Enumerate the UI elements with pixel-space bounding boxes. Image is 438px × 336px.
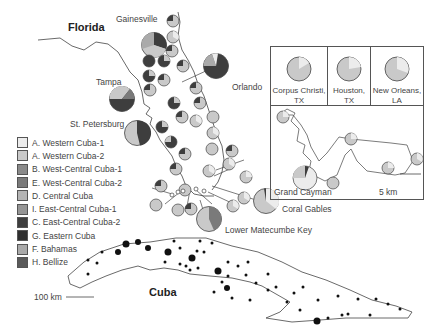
legend-item: A. Western Cuba-1 [17, 136, 122, 149]
legend-item: E. West-Central Cuba-2 [17, 176, 122, 189]
pie-tampa[interactable] [109, 86, 134, 111]
pie-gainesville[interactable] [141, 32, 166, 57]
pie-houston[interactable] [328, 47, 371, 87]
pie-orlando[interactable] [203, 53, 228, 78]
region-label-cuba: Cuba [149, 287, 177, 298]
legend-item: A. Western Cuba-2 [17, 149, 122, 162]
pie-new-orleans[interactable] [371, 47, 423, 87]
inset-corpus-christi: Corpus Christi, TX [271, 47, 328, 105]
city-label-gainesville: Gainesville [116, 15, 158, 24]
inset-label-grand-cayman: Grand Cayman [274, 188, 332, 197]
legend-item: D. Central Cuba [17, 189, 122, 202]
city-label-st-petersburg: St. Petersburg [70, 120, 124, 129]
legend: A. Western Cuba-1 A. Western Cuba-2 B. W… [17, 136, 122, 269]
scale-label-main: 100 km [34, 293, 62, 302]
legend-item: I. East-Central Cuba-1 [17, 202, 122, 215]
city-label-coral-gables: Coral Gables [282, 205, 332, 214]
city-label-orlando: Orlando [232, 83, 262, 92]
pie-corpus-christi[interactable] [271, 47, 328, 87]
pie-st-petersburg[interactable] [125, 120, 152, 145]
inset-new-orleans: New Orleans, LA [371, 47, 423, 105]
scale-label-inset: 5 km [379, 188, 397, 197]
inset-houston: Houston, TX [328, 47, 371, 105]
inset-panel: Corpus Christi, TX Houston, TX New Orlea… [270, 46, 424, 200]
legend-item: C. East-Central Cuba-2 [17, 216, 122, 229]
legend-item: F. Bahamas [17, 242, 122, 255]
legend-item: B. West-Central Cuba-1 [17, 163, 122, 176]
legend-item: H. Bellize [17, 256, 122, 269]
grand-cayman-map [271, 105, 423, 200]
legend-item: G. Eastern Cuba [17, 229, 122, 242]
city-label-lower-matecumbe-key: Lower Matecumbe Key [225, 226, 312, 235]
city-label-tampa: Tampa [96, 78, 122, 87]
pie-lower-matecumbe-key[interactable] [197, 206, 222, 231]
region-label-florida: Florida [68, 22, 105, 33]
